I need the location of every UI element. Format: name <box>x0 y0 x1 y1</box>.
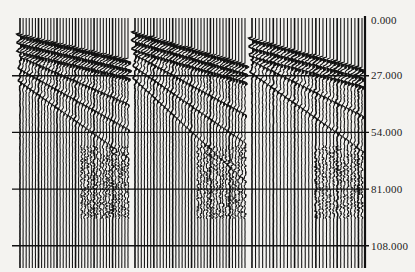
wiggle-trace <box>163 18 170 268</box>
wiggle-trace <box>109 18 115 268</box>
y-tick-label-54: 54.000 <box>371 126 402 138</box>
seismic-section <box>0 0 415 272</box>
y-tick-label-81: 81.000 <box>371 183 402 195</box>
wiggle-trace <box>235 18 241 268</box>
wiggle-trace <box>281 18 288 268</box>
wiggle-trace <box>338 18 344 268</box>
wiggle-trace <box>17 18 24 268</box>
wiggle-traces <box>17 18 365 268</box>
y-tick-label-27: 27.000 <box>371 69 402 81</box>
wiggle-trace <box>355 18 362 268</box>
wiggle-trace <box>125 18 132 268</box>
wiggle-trace <box>220 18 226 268</box>
wiggle-trace <box>309 18 316 268</box>
wiggle-trace <box>334 18 340 268</box>
y-tick-label-108: 108.000 <box>371 240 408 252</box>
wiggle-trace <box>249 18 256 268</box>
wiggle-fill <box>245 66 249 214</box>
y-tick-label-0: 0.000 <box>371 14 397 26</box>
wiggle-trace <box>330 18 337 268</box>
wiggle-trace <box>291 18 298 268</box>
wiggle-trace <box>138 18 144 268</box>
wiggle-trace <box>232 18 238 268</box>
wiggle-trace <box>323 18 330 268</box>
wiggle-trace <box>320 18 326 268</box>
wiggle-trace <box>259 18 266 268</box>
wiggle-trace <box>45 18 51 268</box>
wiggle-trace <box>316 18 322 268</box>
wiggle-trace <box>81 18 87 268</box>
wiggle-trace <box>327 18 334 268</box>
wiggle-trace <box>182 18 189 268</box>
wiggle-trace <box>252 18 259 268</box>
wiggle-trace <box>340 18 347 268</box>
